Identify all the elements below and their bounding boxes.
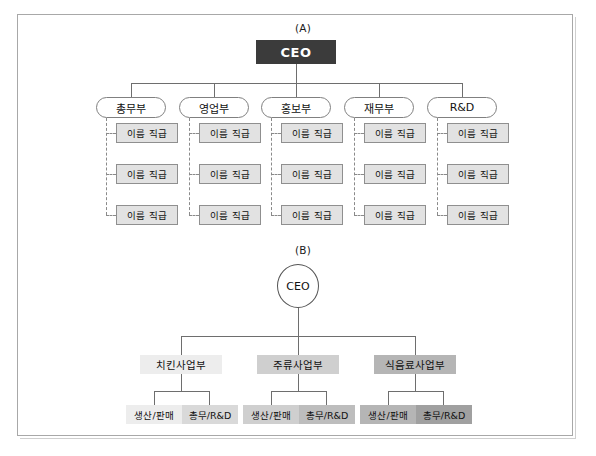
member-box[interactable]: 이름 직급 bbox=[364, 205, 426, 225]
connector-a-stub-5-1 bbox=[437, 133, 447, 134]
connector-a-stub-3-2 bbox=[271, 174, 281, 175]
connector-a-stub-5-3 bbox=[437, 215, 447, 216]
leaf-liquor-production-sales[interactable]: 생산/판매 bbox=[243, 405, 299, 424]
leaf-chicken-admin-rnd[interactable]: 총무/R&D bbox=[182, 405, 238, 424]
connector-b-d2-stem bbox=[298, 374, 299, 391]
connector-a-root-stem bbox=[296, 64, 297, 83]
connector-b-d1-bus bbox=[154, 391, 209, 392]
member-box[interactable]: 이름 직급 bbox=[281, 205, 343, 225]
connector-b-d1-drop-1 bbox=[154, 391, 155, 405]
department-hongbobu[interactable]: 홍보부 bbox=[261, 97, 331, 118]
department-chongmubu[interactable]: 총무부 bbox=[96, 97, 166, 118]
member-box[interactable]: 이름 직급 bbox=[116, 205, 178, 225]
member-box[interactable]: 이름 직급 bbox=[116, 164, 178, 184]
connector-a-stub-3-1 bbox=[271, 133, 281, 134]
connector-b-root-stem bbox=[298, 308, 299, 336]
connector-a-stub-3-3 bbox=[271, 215, 281, 216]
member-box[interactable]: 이름 직급 bbox=[447, 164, 509, 184]
connector-b-d1-drop-2 bbox=[209, 391, 210, 405]
division-fnb[interactable]: 식음료사업부 bbox=[374, 355, 456, 374]
connector-a-stub-4-3 bbox=[354, 215, 364, 216]
member-box[interactable]: 이름 직급 bbox=[199, 205, 261, 225]
department-jaemubu[interactable]: 재무부 bbox=[344, 97, 414, 118]
member-box[interactable]: 이름 직급 bbox=[281, 123, 343, 143]
connector-a-stub-4-2 bbox=[354, 174, 364, 175]
panel-b-ceo-circle: CEO bbox=[277, 264, 319, 308]
connector-b-d3-drop-1 bbox=[388, 391, 389, 405]
connector-a-drop-5 bbox=[462, 83, 463, 97]
leaf-fnb-production-sales[interactable]: 생산/판매 bbox=[360, 405, 416, 424]
member-box[interactable]: 이름 직급 bbox=[116, 123, 178, 143]
connector-a-stub-2-3 bbox=[189, 215, 199, 216]
member-box[interactable]: 이름 직급 bbox=[199, 164, 261, 184]
connector-b-d2-drop-2 bbox=[326, 391, 327, 405]
connector-b-d3-bus bbox=[388, 391, 443, 392]
department-rnd[interactable]: R&D bbox=[427, 97, 497, 118]
leaf-liquor-admin-rnd[interactable]: 총무/R&D bbox=[299, 405, 355, 424]
panel-a-ceo-box: CEO bbox=[256, 40, 336, 64]
connector-a-stub-2-1 bbox=[189, 133, 199, 134]
connector-a-stub-2-2 bbox=[189, 174, 199, 175]
panel-a-caption: (A) bbox=[295, 22, 311, 34]
figure-canvas: (A) CEO 총무부 영업부 홍보부 재무부 R&D bbox=[0, 0, 596, 456]
connector-b-drop-3 bbox=[415, 336, 416, 355]
division-chicken[interactable]: 치킨사업부 bbox=[140, 355, 222, 374]
member-box[interactable]: 이름 직급 bbox=[364, 164, 426, 184]
connector-a-drop-2 bbox=[214, 83, 215, 97]
connector-a-stub-1-2 bbox=[106, 174, 116, 175]
connector-a-stub-5-2 bbox=[437, 174, 447, 175]
figure-frame: (A) CEO 총무부 영업부 홍보부 재무부 R&D bbox=[17, 14, 573, 436]
connector-a-stub-1-3 bbox=[106, 215, 116, 216]
connector-b-d3-stem bbox=[415, 374, 416, 391]
connector-b-d2-bus bbox=[271, 391, 326, 392]
member-box[interactable]: 이름 직급 bbox=[447, 205, 509, 225]
connector-b-d2-drop-1 bbox=[271, 391, 272, 405]
connector-a-drop-3 bbox=[296, 83, 297, 97]
leaf-fnb-admin-rnd[interactable]: 총무/R&D bbox=[416, 405, 472, 424]
department-yeongeopbu[interactable]: 영업부 bbox=[179, 97, 249, 118]
panel-b-caption: (B) bbox=[295, 244, 311, 256]
connector-a-stub-4-1 bbox=[354, 133, 364, 134]
connector-b-d1-stem bbox=[181, 374, 182, 391]
connector-b-drop-2 bbox=[298, 336, 299, 355]
member-box[interactable]: 이름 직급 bbox=[281, 164, 343, 184]
connector-b-d3-drop-2 bbox=[443, 391, 444, 405]
connector-a-stub-1-1 bbox=[106, 133, 116, 134]
leaf-chicken-production-sales[interactable]: 생산/판매 bbox=[126, 405, 182, 424]
division-liquor[interactable]: 주류사업부 bbox=[257, 355, 339, 374]
member-box[interactable]: 이름 직급 bbox=[364, 123, 426, 143]
member-box[interactable]: 이름 직급 bbox=[447, 123, 509, 143]
connector-a-drop-1 bbox=[131, 83, 132, 97]
connector-b-drop-1 bbox=[181, 336, 182, 355]
member-box[interactable]: 이름 직급 bbox=[199, 123, 261, 143]
connector-a-drop-4 bbox=[379, 83, 380, 97]
